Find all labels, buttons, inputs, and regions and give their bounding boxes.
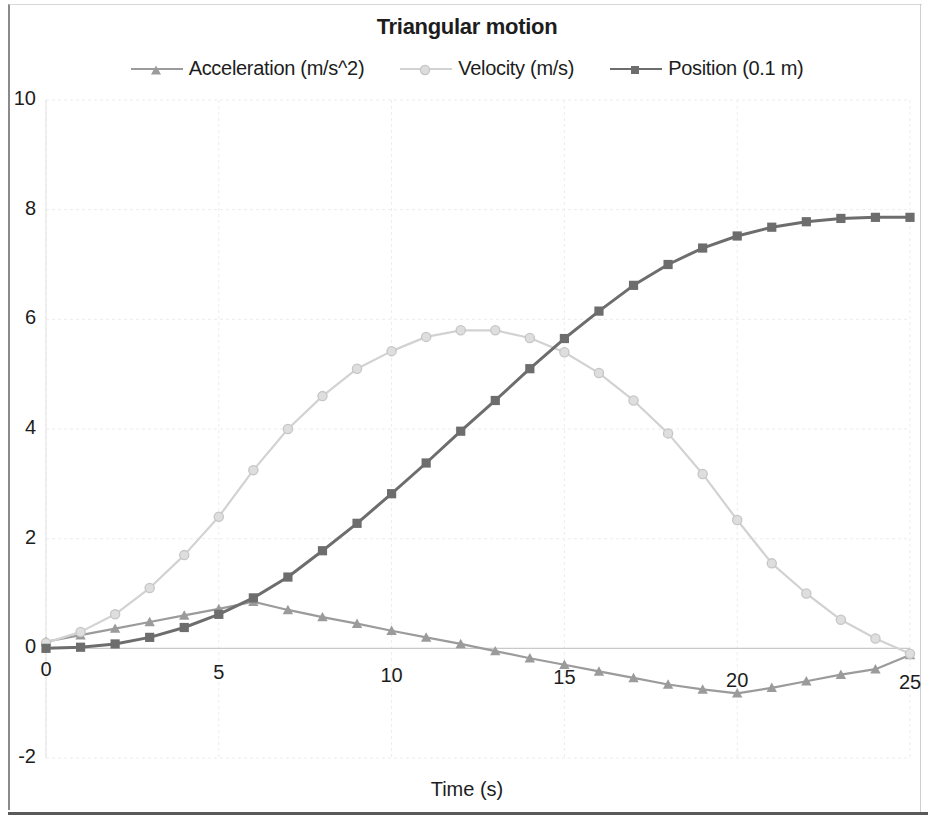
- data-point-square: [352, 519, 361, 528]
- series-line: [46, 217, 910, 648]
- data-point-square: [560, 334, 569, 343]
- plot-area: 1086420-2 0510152025: [0, 0, 934, 836]
- data-point-circle: [663, 429, 672, 438]
- data-point-square: [456, 427, 465, 436]
- data-point-square: [733, 231, 742, 240]
- gridlines: [46, 100, 910, 758]
- data-point-square: [318, 546, 327, 555]
- data-point-square: [663, 260, 672, 269]
- x-axis-title: Time (s): [0, 778, 934, 801]
- data-point-circle: [249, 466, 258, 475]
- data-point-circle: [698, 469, 707, 478]
- plot-svg: [0, 0, 934, 836]
- data-point-square: [698, 243, 707, 252]
- data-point-square: [525, 364, 534, 373]
- data-point-square: [283, 572, 292, 581]
- data-point-square: [594, 307, 603, 316]
- y-tick-label: 6: [2, 306, 36, 329]
- series-triangle: [41, 597, 915, 698]
- data-point-circle: [180, 551, 189, 560]
- x-tick-label: 20: [717, 669, 757, 692]
- data-point-circle: [629, 396, 638, 405]
- data-point-square: [491, 396, 500, 405]
- x-tick-label: 15: [544, 666, 584, 689]
- data-point-circle: [422, 332, 431, 341]
- series-line: [46, 330, 910, 654]
- data-point-square: [836, 214, 845, 223]
- x-tick-label: 10: [372, 664, 412, 687]
- data-point-circle: [387, 347, 396, 356]
- data-point-circle: [145, 583, 154, 592]
- data-point-circle: [733, 515, 742, 524]
- y-tick-label: 8: [2, 197, 36, 220]
- x-tick-label: 25: [890, 671, 930, 694]
- data-point-circle: [560, 348, 569, 357]
- data-point-square: [145, 633, 154, 642]
- data-point-square: [249, 593, 258, 602]
- data-point-circle: [352, 364, 361, 373]
- series-circle: [41, 326, 914, 659]
- y-tick-label: -2: [2, 745, 36, 768]
- data-point-square: [802, 217, 811, 226]
- data-point-square: [111, 639, 120, 648]
- data-point-circle: [491, 326, 500, 335]
- data-point-square: [905, 213, 914, 222]
- data-point-square: [871, 213, 880, 222]
- data-point-circle: [318, 392, 327, 401]
- y-tick-label: 0: [2, 635, 36, 658]
- data-point-circle: [111, 610, 120, 619]
- y-tick-label: 4: [2, 416, 36, 439]
- data-point-circle: [525, 333, 534, 342]
- series-line: [46, 602, 910, 694]
- data-point-circle: [767, 559, 776, 568]
- data-point-circle: [905, 649, 914, 658]
- chart-page: Triangular motion Acceleration (m/s^2) V…: [0, 0, 934, 836]
- data-point-square: [767, 223, 776, 232]
- x-tick-label: 0: [26, 658, 66, 681]
- data-point-circle: [283, 424, 292, 433]
- y-tick-label: 10: [2, 87, 36, 110]
- y-tick-label: 2: [2, 526, 36, 549]
- data-point-square: [422, 458, 431, 467]
- series-layer: [41, 213, 915, 698]
- data-point-circle: [456, 326, 465, 335]
- data-point-square: [214, 610, 223, 619]
- data-point-square: [387, 489, 396, 498]
- data-point-square: [76, 643, 85, 652]
- data-point-circle: [871, 634, 880, 643]
- data-point-circle: [214, 512, 223, 521]
- data-point-square: [629, 281, 638, 290]
- data-point-circle: [836, 615, 845, 624]
- data-point-circle: [76, 627, 85, 636]
- series-square: [41, 213, 914, 653]
- data-point-square: [180, 623, 189, 632]
- data-point-circle: [802, 589, 811, 598]
- x-tick-label: 5: [199, 661, 239, 684]
- data-point-circle: [594, 368, 603, 377]
- data-point-square: [41, 644, 50, 653]
